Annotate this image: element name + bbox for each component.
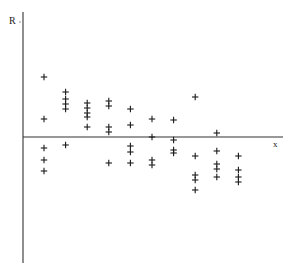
plus-marker: [127, 122, 133, 128]
plus-marker: [127, 160, 133, 166]
x-axis-label: x: [273, 139, 278, 149]
plus-marker: [235, 167, 241, 173]
plus-marker: [170, 117, 176, 123]
plus-marker: [62, 89, 68, 95]
plus-marker: [127, 106, 133, 112]
plus-marker: [192, 177, 198, 183]
plus-marker: [235, 179, 241, 185]
plus-marker: [149, 116, 155, 122]
plus-marker: [41, 168, 47, 174]
y-axis-label: R: [9, 15, 16, 26]
plus-marker: [62, 142, 68, 148]
plus-marker: [192, 94, 198, 100]
plus-marker: [106, 129, 112, 135]
plus-marker: [41, 145, 47, 151]
plus-marker: [149, 134, 155, 140]
plus-marker: [214, 174, 220, 180]
plus-marker: [214, 130, 220, 136]
plus-marker: [84, 124, 90, 130]
plus-marker: [192, 187, 198, 193]
plus-marker: [127, 149, 133, 155]
plus-marker: [41, 116, 47, 122]
plus-marker: [170, 150, 176, 156]
plus-marker: [84, 114, 90, 120]
plus-marker: [62, 106, 68, 112]
plus-marker: [106, 103, 112, 109]
plus-marker: [192, 153, 198, 159]
plus-marker: [41, 74, 47, 80]
plus-marker: [214, 166, 220, 172]
plus-marker: [235, 153, 241, 159]
plus-marker: [170, 137, 176, 143]
plus-marker: [127, 143, 133, 149]
plus-marker: [149, 162, 155, 168]
scatter-plot: [0, 0, 292, 273]
data-points: [41, 74, 242, 193]
plus-marker: [41, 157, 47, 163]
plus-marker: [214, 148, 220, 154]
plus-marker: [106, 160, 112, 166]
